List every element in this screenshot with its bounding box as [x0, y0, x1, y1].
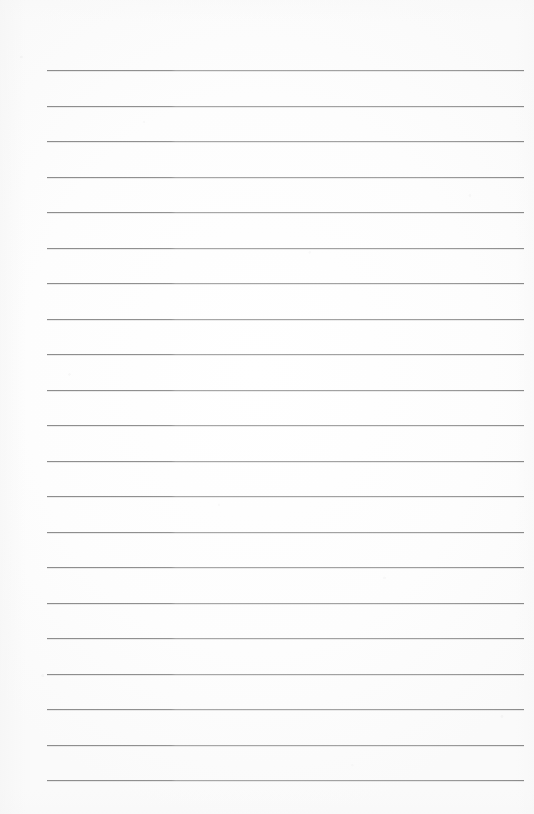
ruled-line: [47, 603, 524, 604]
ruled-line: [47, 425, 524, 426]
ruled-line: [47, 780, 524, 781]
ruled-line: [47, 390, 524, 391]
ruled-line: [47, 212, 524, 213]
ruled-line: [47, 106, 524, 107]
ruled-line: [47, 709, 524, 710]
ruled-line: [47, 674, 524, 675]
ruled-line: [47, 354, 524, 355]
ruled-line: [47, 141, 524, 142]
ruled-line: [47, 638, 524, 639]
ruled-line: [47, 532, 524, 533]
ruled-line: [47, 496, 524, 497]
ruled-line: [47, 319, 524, 320]
ruled-lines-group: [0, 0, 534, 814]
ruled-line: [47, 177, 524, 178]
ruled-line: [47, 461, 524, 462]
ruled-line: [47, 70, 524, 71]
scanned-page: [0, 0, 534, 814]
ruled-line: [47, 745, 524, 746]
ruled-line: [47, 283, 524, 284]
ruled-line: [47, 567, 524, 568]
ruled-line: [47, 248, 524, 249]
